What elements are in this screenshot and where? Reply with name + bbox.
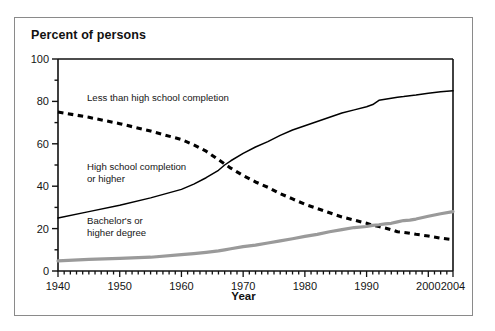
y-tick-label: 60 <box>37 138 49 150</box>
y-tick-label: 20 <box>37 223 49 235</box>
figure-frame: Percent of persons 020406080100194019501… <box>14 17 473 316</box>
annotation-bachelors-line1: Bachelor's or <box>87 215 143 226</box>
plot-area: 0204060801001940195019601970198019902000… <box>15 18 474 317</box>
annotation-less-than-high-school: Less than high school completion <box>87 92 229 103</box>
y-tick-label: 100 <box>31 53 49 65</box>
y-tick-label: 0 <box>43 265 49 277</box>
line-chart-svg: 0204060801001940195019601970198019902000… <box>15 18 474 317</box>
annotation-bachelors-line2: higher degree <box>87 227 146 238</box>
annotation-high-school-line2: or higher <box>87 173 126 184</box>
y-tick-label: 40 <box>37 180 49 192</box>
annotation-high-school-line1: High school completion <box>87 161 186 172</box>
x-axis-label: Year <box>15 290 472 302</box>
y-tick-label: 80 <box>37 95 49 107</box>
series-high-school-completion <box>58 91 453 218</box>
